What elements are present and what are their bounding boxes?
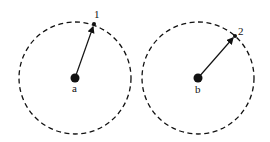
panel-b: b 2 [142, 22, 254, 134]
panel-a: a 1 [19, 8, 131, 134]
point-dot-1 [92, 22, 96, 26]
center-label-b: b [195, 83, 201, 95]
radius-arrow-a [75, 27, 93, 78]
diagram-canvas: a 1 b 2 [0, 0, 270, 142]
point-dot-2 [233, 34, 237, 38]
center-label-a: a [72, 82, 77, 94]
point-label-2: 2 [238, 25, 244, 37]
radius-arrow-b [198, 38, 233, 78]
center-dot-b [194, 74, 203, 83]
point-label-1: 1 [94, 8, 100, 20]
